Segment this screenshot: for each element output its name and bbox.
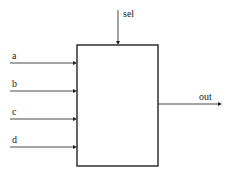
input-label: b: [12, 78, 17, 89]
mux-diagram: sel a b c d out: [0, 0, 235, 181]
input-label: d: [12, 134, 17, 145]
input-b: b: [10, 78, 77, 93]
output-label: out: [199, 91, 212, 102]
output-signal: out: [158, 91, 222, 106]
select-signal: sel: [116, 8, 134, 45]
output-arrow-icon: [218, 102, 222, 106]
input-label: a: [12, 50, 17, 61]
input-c: c: [10, 106, 77, 121]
select-label: sel: [123, 8, 134, 19]
mux-block: [77, 45, 158, 166]
input-d: d: [10, 134, 77, 149]
input-a: a: [10, 50, 77, 65]
input-label: c: [12, 106, 17, 117]
